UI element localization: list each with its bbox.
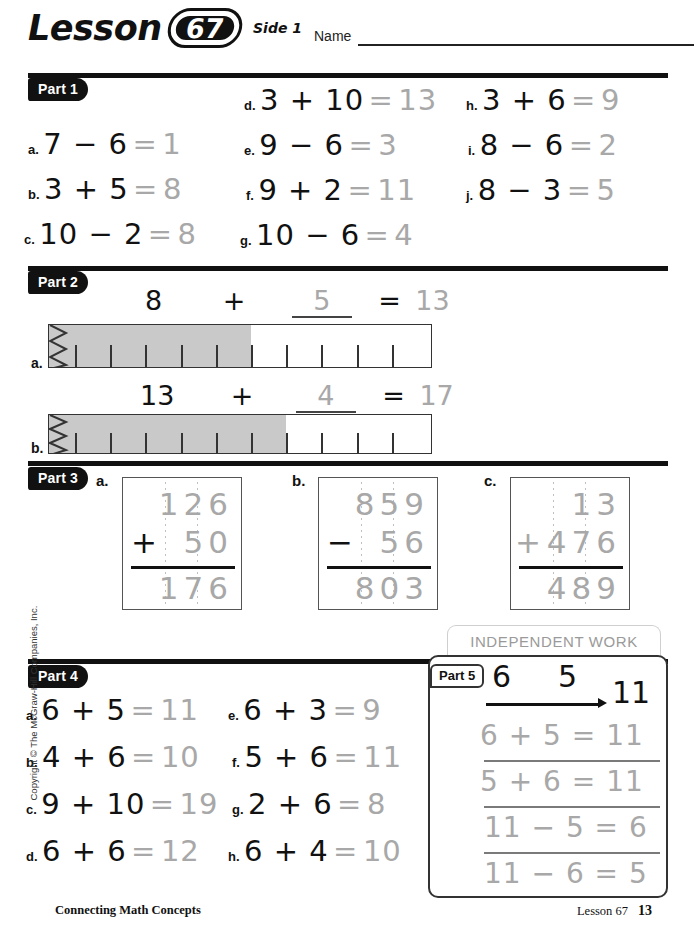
item-expression: 6 + 6 (42, 834, 127, 868)
item-equals: = (369, 83, 394, 117)
bar-tick (321, 345, 323, 367)
part1-item-f: f. 9 + 2 = 11 (246, 173, 416, 207)
bar-tick (251, 433, 253, 453)
total-answer[interactable]: 13 (415, 285, 449, 316)
item-answer[interactable]: 19 (180, 787, 219, 821)
top-number[interactable]: 126 (159, 486, 233, 522)
blank-answer[interactable]: 5 (292, 285, 352, 318)
divider-rule-part3 (28, 461, 668, 466)
divider-rule-top (28, 73, 668, 78)
item-answer[interactable]: 10 (363, 834, 402, 868)
top-number[interactable]: 859 (355, 486, 429, 522)
start-number: 13 (140, 380, 174, 411)
item-answer[interactable]: 11 (363, 740, 402, 774)
footer-lesson-info: Lesson 6713 (577, 903, 652, 919)
part5-fact-rule-1 (484, 760, 660, 762)
item-expression: 2 + 6 (248, 787, 333, 821)
item-answer[interactable]: 11 (377, 173, 416, 207)
item-answer[interactable]: 8 (367, 787, 386, 821)
footer-page-number: 13 (638, 903, 652, 918)
part4-item-c: c. 9 + 10 = 19 (26, 787, 219, 821)
part5-fact-4[interactable]: 11 − 6 = 5 (484, 857, 648, 890)
bar-zigzag-edge (48, 325, 70, 367)
part-5-badge: Part 5 (430, 664, 484, 688)
bottom-number[interactable]: 50 (184, 524, 233, 560)
item-answer[interactable]: 5 (597, 173, 616, 207)
item-expression: 8 − 6 (480, 128, 565, 162)
bar-tick (357, 433, 359, 453)
item-answer[interactable]: 9 (362, 693, 381, 727)
item-answer[interactable]: 8 (163, 172, 182, 206)
bottom-number[interactable]: 476 (547, 524, 621, 560)
part4-item-e: e. 6 + 3 = 9 (228, 693, 382, 727)
bar-tick (286, 433, 288, 453)
blank-answer[interactable]: 4 (296, 380, 356, 413)
number-family-small-2[interactable]: 5 (558, 659, 577, 694)
total-answer[interactable]: 17 (419, 380, 453, 411)
answer-number[interactable]: 176 (159, 570, 233, 606)
item-expression: 6 + 4 (244, 834, 329, 868)
item-equals: = (571, 83, 596, 117)
item-expression: 10 − 6 (256, 218, 360, 252)
bar-tick (286, 345, 288, 367)
top-number[interactable]: 13 (572, 486, 621, 522)
part1-item-i: i. 8 − 6 = 2 (468, 128, 618, 162)
answer-rule (131, 566, 235, 569)
item-answer[interactable]: 2 (599, 128, 618, 162)
part5-fact-1[interactable]: 6 + 5 = 11 (480, 719, 644, 752)
part1-item-c: c. 10 − 2 = 8 (24, 217, 197, 251)
copyright-notice: Copyright © The McGraw-Hill Companies, I… (28, 611, 39, 801)
part1-item-e: e. 9 − 6 = 3 (244, 128, 398, 162)
item-letter: g. (232, 802, 244, 817)
name-input-line[interactable] (358, 44, 694, 46)
bar-tick (392, 345, 394, 367)
number-family-total[interactable]: 11 (612, 675, 650, 710)
item-answer[interactable]: 3 (378, 128, 397, 162)
part4-item-a: a. 6 + 5 = 11 (26, 693, 199, 727)
part1-item-a: a. 7 − 6 = 1 (28, 127, 182, 161)
item-answer[interactable]: 9 (601, 83, 620, 117)
item-answer[interactable]: 1 (162, 127, 181, 161)
part5-fact-rule-3 (484, 852, 660, 854)
part3-problem-box-c[interactable]: + 13 476 489 (510, 477, 630, 610)
part4-item-g: g. 2 + 6 = 8 (232, 787, 386, 821)
item-answer[interactable]: 4 (394, 218, 413, 252)
part3-item-c-letter: c. (484, 472, 497, 489)
answer-number[interactable]: 489 (547, 570, 621, 606)
item-equals: = (133, 172, 158, 206)
item-letter: f. (232, 755, 240, 770)
bar-tick (110, 433, 112, 453)
divider-rule-part2 (28, 266, 668, 271)
item-letter: j. (466, 188, 473, 203)
item-expression: 7 − 6 (43, 127, 128, 161)
item-expression: 3 + 6 (482, 83, 567, 117)
item-equals: = (150, 787, 175, 821)
item-answer[interactable]: 8 (178, 217, 197, 251)
item-answer[interactable]: 11 (160, 693, 199, 727)
part-1-badge: Part 1 (28, 78, 88, 101)
part5-fact-3[interactable]: 11 − 5 = 6 (484, 811, 648, 844)
item-answer[interactable]: 12 (161, 834, 200, 868)
part-2-badge: Part 2 (28, 271, 88, 294)
operator: − (327, 524, 353, 560)
answer-number[interactable]: 803 (355, 570, 429, 606)
bar-tick (145, 345, 147, 367)
part3-problem-box-a[interactable]: + 126 50 176 (122, 477, 242, 610)
item-letter: d. (244, 98, 256, 113)
part-3-badge: Part 3 (28, 467, 88, 490)
name-label: Name (314, 28, 351, 44)
item-expression: 4 + 6 (42, 740, 127, 774)
bar-tick (75, 345, 77, 367)
item-equals: = (569, 128, 594, 162)
part3-problem-box-b[interactable]: − 859 56 803 (318, 477, 438, 610)
equals-sign: = (382, 380, 405, 411)
item-answer[interactable]: 10 (161, 740, 200, 774)
bottom-number[interactable]: 56 (380, 524, 429, 560)
item-answer[interactable]: 13 (398, 83, 437, 117)
number-family-small-1[interactable]: 6 (492, 659, 511, 694)
item-equals: = (332, 693, 357, 727)
item-equals: = (365, 218, 390, 252)
part5-fact-2[interactable]: 5 + 6 = 11 (480, 765, 644, 798)
item-letter: d. (26, 849, 38, 864)
answer-rule (327, 566, 431, 569)
